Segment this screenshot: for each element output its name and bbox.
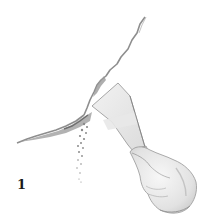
scraping-crack-illustration — [0, 0, 221, 223]
hand — [130, 147, 197, 213]
falling-debris — [76, 123, 88, 183]
step-number: 1 — [17, 178, 26, 191]
